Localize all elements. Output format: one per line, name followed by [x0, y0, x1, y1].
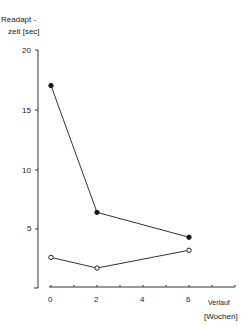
open-circle-marker [187, 248, 191, 252]
filled-circle-marker [187, 235, 191, 239]
filled-circle-marker [49, 83, 53, 87]
chart-plot [0, 0, 247, 326]
series-line-open [51, 250, 189, 268]
open-circle-marker [49, 255, 53, 259]
axes [34, 50, 235, 288]
open-circle-marker [95, 266, 99, 270]
filled-circle-marker [95, 210, 99, 214]
series-line-filled [51, 86, 189, 238]
